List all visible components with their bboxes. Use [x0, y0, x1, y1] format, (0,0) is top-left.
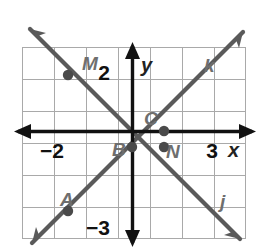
point-M[interactable] — [63, 70, 73, 80]
point-label-N: N — [166, 141, 181, 162]
x-axis-label: x — [227, 139, 240, 161]
point-B[interactable] — [127, 142, 137, 152]
coordinate-plane-figure: M C B N A k j y x 2 −3 −2 3 — [0, 0, 274, 249]
point-label-B: B — [112, 139, 126, 160]
y-tick-2: 2 — [98, 61, 110, 84]
line-label-k: k — [204, 55, 216, 76]
x-tick-3: 3 — [206, 139, 218, 162]
graph-canvas: M C B N A k j y x 2 −3 −2 3 — [0, 0, 274, 249]
point-label-C: C — [144, 108, 158, 129]
point-label-M: M — [82, 53, 99, 74]
x-tick-neg2: −2 — [40, 139, 64, 162]
point-C[interactable] — [159, 126, 169, 136]
point-label-A: A — [59, 189, 74, 210]
y-axis-label: y — [140, 54, 153, 76]
y-tick-neg3: −3 — [86, 216, 110, 239]
